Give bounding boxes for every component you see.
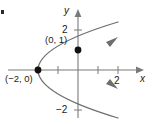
y-axis-label: y [64, 6, 69, 16]
point-marker-neg2-0 [35, 67, 42, 74]
curve-upper-arrowhead [106, 37, 118, 47]
point-marker-0-1 [75, 47, 82, 54]
y-tick-label-neg2: −2 [56, 105, 67, 115]
y-axis-arrowhead [75, 9, 82, 17]
y-axis [75, 9, 82, 118]
x-axis-label: x [140, 74, 145, 84]
coordinate-plane-svg [0, 0, 153, 124]
x-tick-label-2: 2 [114, 76, 120, 86]
point-label-neg2-0: (−2, 0) [5, 74, 33, 84]
parabola-figure: y x 2 −2 2 (0, 1) (−2, 0) [0, 0, 153, 124]
point-label-0-1: (0, 1) [45, 35, 67, 45]
